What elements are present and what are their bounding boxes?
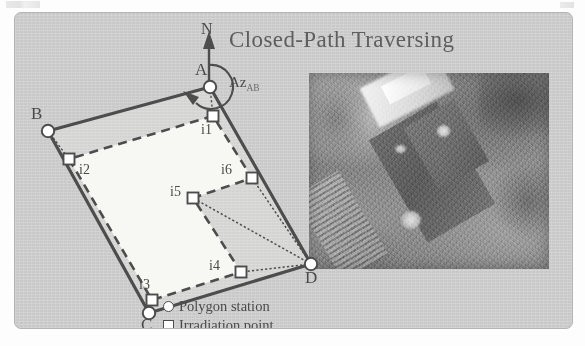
irradiation-label-i6: i6 — [221, 163, 232, 177]
figure-title: Closed-Path Traversing — [229, 27, 454, 53]
irradiation-label-i4: i4 — [209, 259, 220, 273]
polygon-station-marker-icon — [163, 301, 174, 312]
station-label-D: D — [305, 269, 317, 286]
azimuth-label: AzAB — [229, 75, 260, 94]
azimuth-label-text: Az — [229, 74, 247, 90]
irradiation-label-i1: i1 — [201, 123, 212, 137]
azimuth-label-subscript: AB — [247, 83, 260, 93]
station-label-C: C — [141, 316, 152, 329]
station-label-A: A — [195, 61, 207, 78]
irradiation-label-i5: i5 — [170, 185, 181, 199]
irradiation-marker-i4 — [236, 267, 247, 278]
north-label: N — [201, 21, 213, 37]
page-canvas: Closed-Path Traversing N AzAB A B C D i1… — [0, 0, 585, 346]
legend-label-polygon-station: Polygon station — [179, 297, 270, 316]
irradiation-label-i3: i3 — [139, 278, 150, 292]
legend: Polygon station Irradiation point — [163, 297, 274, 329]
station-marker-B — [42, 125, 54, 137]
irradiation-marker-i2 — [64, 154, 75, 165]
irradiation-label-i2: i2 — [79, 163, 90, 177]
station-marker-A — [204, 81, 216, 93]
station-label-B: B — [31, 105, 42, 122]
irradiation-marker-i1 — [208, 111, 219, 122]
irradiation-marker-i5 — [188, 193, 199, 204]
irradiation-marker-i3 — [147, 295, 158, 306]
scan-artifact-top-right — [560, 2, 574, 8]
irradiation-marker-i6 — [247, 173, 258, 184]
traverse-diagram — [15, 13, 573, 329]
irradiation-point-marker-icon — [163, 320, 174, 329]
legend-item-irradiation-point: Irradiation point — [163, 316, 274, 329]
legend-label-irradiation-point: Irradiation point — [179, 316, 274, 329]
scan-artifact-top-left — [6, 1, 40, 8]
figure-panel: Closed-Path Traversing N AzAB A B C D i1… — [14, 12, 573, 329]
legend-item-polygon-station: Polygon station — [163, 297, 274, 316]
